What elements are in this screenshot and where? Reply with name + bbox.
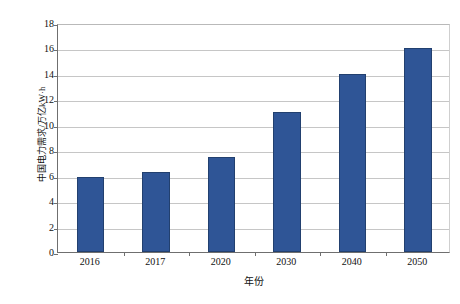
- bar: [77, 177, 105, 252]
- x-tick-label: 2030: [276, 256, 296, 268]
- y-tick-mark: [54, 254, 58, 255]
- bar: [339, 74, 367, 252]
- y-tick-label: 16: [30, 44, 54, 54]
- y-tick-label: 4: [30, 197, 54, 207]
- y-tick-label: 2: [30, 223, 54, 233]
- x-tick-label: 2050: [407, 256, 427, 268]
- x-axis-title: 年份: [57, 276, 450, 288]
- y-tick-label: 14: [30, 70, 54, 80]
- y-tick-label: 18: [30, 19, 54, 29]
- y-axis-tick-labels: 024681012141618: [30, 24, 54, 253]
- bar: [142, 172, 170, 252]
- bar: [404, 48, 432, 252]
- bar: [273, 112, 301, 252]
- x-tick-label: 2020: [211, 256, 231, 268]
- y-tick-label: 0: [30, 248, 54, 258]
- y-tick-label: 8: [30, 146, 54, 156]
- bar-chart-figure: 中国电力需求/万亿kW·h 024681012141618 2016201720…: [0, 0, 460, 304]
- x-axis-tick-labels: 201620172020203020402050: [57, 256, 450, 270]
- y-tick-label: 10: [30, 121, 54, 131]
- y-tick-label: 12: [30, 95, 54, 105]
- x-tick-label: 2016: [80, 256, 100, 268]
- y-tick-label: 6: [30, 172, 54, 182]
- x-tick-label: 2040: [342, 256, 362, 268]
- bars-group: [58, 25, 449, 252]
- plot-area: [57, 24, 450, 253]
- bar: [208, 157, 236, 252]
- x-tick-label: 2017: [145, 256, 165, 268]
